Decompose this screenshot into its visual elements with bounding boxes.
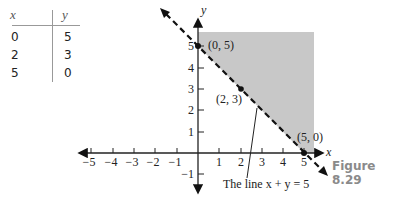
svg-text:1: 1 — [188, 125, 194, 139]
y-tick-labels: 123 45−1 — [181, 39, 194, 181]
svg-text:2: 2 — [238, 155, 244, 169]
svg-text:−5: −5 — [83, 155, 96, 169]
svg-text:3: 3 — [259, 155, 265, 169]
point-label-0-5: (0, 5) — [208, 38, 234, 53]
svg-text:−2: −2 — [147, 155, 160, 169]
svg-text:5: 5 — [301, 155, 307, 169]
svg-text:1: 1 — [216, 155, 222, 169]
svg-text:3: 3 — [188, 82, 194, 96]
svg-text:−3: −3 — [126, 155, 139, 169]
point-2-3 — [238, 86, 244, 92]
figure-label: Figure 8.29 — [332, 159, 409, 187]
x-axis-label: x — [326, 145, 331, 160]
line-annotation: The line x + y = 5 — [223, 177, 309, 192]
point-5-0 — [301, 150, 307, 156]
svg-text:4: 4 — [280, 155, 286, 169]
svg-text:2: 2 — [188, 103, 194, 117]
point-label-2-3: (2, 3) — [216, 92, 242, 107]
y-axis-label: y — [201, 3, 206, 18]
x-tick-labels: −5−4−3 −2−1 123 45 — [83, 155, 307, 169]
point-label-5-0: (5, 0) — [297, 130, 323, 145]
y-ticks — [198, 46, 204, 174]
svg-text:4: 4 — [188, 61, 194, 75]
line-arrow-down — [318, 166, 328, 176]
svg-text:−4: −4 — [105, 155, 118, 169]
svg-text:−1: −1 — [169, 155, 182, 169]
point-0-5 — [195, 43, 201, 49]
svg-text:−1: −1 — [181, 167, 194, 181]
